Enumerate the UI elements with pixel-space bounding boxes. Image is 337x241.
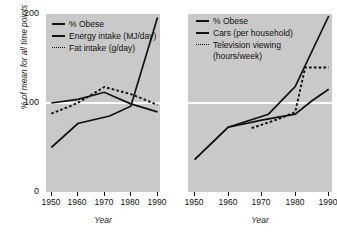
right-x-tick-1990: 1990 bbox=[319, 197, 337, 207]
left-x-tick-1950: 1950 bbox=[42, 197, 61, 207]
y-tick-200: 200 bbox=[24, 8, 39, 18]
y-tick-100: 100 bbox=[24, 97, 39, 107]
left-x-tick-1960: 1960 bbox=[68, 197, 87, 207]
right-legend: % Obese Cars (per household) Television … bbox=[196, 15, 293, 62]
y-tick-0: 0 bbox=[34, 186, 39, 196]
right-x-tick-1950: 1950 bbox=[185, 197, 204, 207]
legend-line-solid-icon bbox=[52, 31, 65, 41]
legend-label-continuation: (hours/week) bbox=[196, 51, 293, 62]
legend-label: Cars (per household) bbox=[213, 28, 293, 39]
legend-item: Cars (per household) bbox=[196, 27, 293, 39]
left-x-tick-1980: 1980 bbox=[121, 197, 140, 207]
left-x-axis: 1950 1960 1970 1980 1990 bbox=[46, 192, 160, 208]
right-x-tick-1970: 1970 bbox=[252, 197, 271, 207]
right-x-axis: 1950 1960 1970 1980 1990 bbox=[188, 192, 332, 208]
legend-line-dotted-icon bbox=[52, 43, 65, 53]
left-legend: % Obese Energy intake (MJ/day) Fat intak… bbox=[52, 18, 156, 54]
legend-item: % Obese bbox=[196, 15, 293, 27]
legend-item: % Obese bbox=[52, 18, 156, 30]
right-x-axis-label: Year bbox=[188, 215, 332, 225]
y-axis: 200 100 0 bbox=[0, 14, 44, 192]
right-x-tick-1960: 1960 bbox=[219, 197, 238, 207]
legend-label: Energy intake (MJ/day) bbox=[69, 31, 156, 42]
left-x-axis-label: Year bbox=[46, 215, 160, 225]
legend-line-solid-icon bbox=[196, 28, 209, 38]
left-x-tick-1990: 1990 bbox=[148, 197, 167, 207]
legend-item: Energy intake (MJ/day) bbox=[52, 30, 156, 42]
legend-line-dotted-icon bbox=[196, 40, 209, 50]
legend-item: Television viewing bbox=[196, 39, 293, 51]
legend-line-solid-icon bbox=[52, 19, 65, 29]
left-x-tick-1970: 1970 bbox=[95, 197, 114, 207]
right-x-tick-1980: 1980 bbox=[286, 197, 305, 207]
legend-item: Fat intake (g/day) bbox=[52, 42, 156, 54]
legend-label: % Obese bbox=[213, 16, 248, 27]
legend-label: % Obese bbox=[69, 19, 104, 30]
legend-label: Fat intake (g/day) bbox=[69, 43, 135, 54]
legend-line-solid-icon bbox=[196, 16, 209, 26]
legend-label: Television viewing bbox=[213, 40, 281, 51]
